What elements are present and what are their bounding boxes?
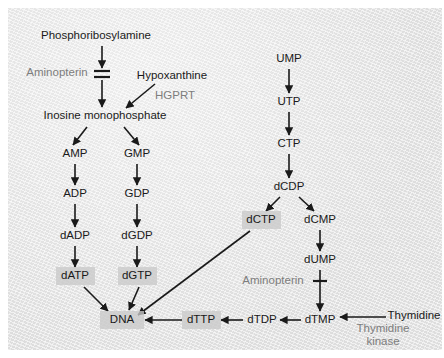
node-dtdp: dTDP — [247, 313, 277, 325]
node-dcmp: dCMP — [304, 213, 336, 225]
node-utp: UTP — [278, 95, 301, 107]
edge-dcdp-to-dcmp — [299, 197, 314, 211]
node-dttp: dTTP — [187, 313, 215, 325]
node-dgtp: dGTP — [122, 269, 152, 281]
node-ctp: CTP — [278, 137, 301, 149]
figure-page: Phosphoribosylamine Inosine monophosphat… — [0, 0, 444, 358]
node-gdp: GDP — [125, 187, 150, 199]
node-datp: dATP — [61, 269, 89, 281]
node-inosine-monophosphate: Inosine monophosphate — [44, 109, 167, 121]
diagram-panel: Phosphoribosylamine Inosine monophosphat… — [8, 8, 442, 350]
node-dtmp: dTMP — [305, 313, 336, 325]
node-phosphoribosylamine: Phosphoribosylamine — [41, 29, 151, 41]
edge-dgtp-to-dna — [129, 287, 139, 310]
node-gmp: GMP — [124, 147, 151, 159]
pathway-diagram: Phosphoribosylamine Inosine monophosphat… — [8, 8, 442, 350]
node-dna: DNA — [110, 313, 135, 325]
node-dctp: dCTP — [246, 213, 276, 225]
node-thymidine: Thymidine — [387, 309, 440, 321]
label-aminopterin-2: Aminopterin — [242, 274, 303, 286]
label-aminopterin-1: Aminopterin — [26, 66, 87, 78]
node-dgdp: dGDP — [121, 229, 153, 241]
edge-dcdp-to-dctp — [266, 197, 280, 211]
node-dadp: dADP — [60, 229, 90, 241]
label-thymidine-kinase-line1: Thymidine — [356, 322, 409, 334]
edge-hypoxanthine-to-imp — [126, 84, 155, 108]
node-hypoxanthine: Hypoxanthine — [137, 69, 207, 81]
node-ump: UMP — [276, 52, 302, 64]
node-amp: AMP — [63, 147, 88, 159]
edge-imp-to-amp — [73, 127, 87, 145]
label-hgprt: HGPRT — [155, 89, 195, 101]
node-label-layer: Phosphoribosylamine Inosine monophosphat… — [41, 29, 441, 325]
edge-imp-to-gmp — [124, 127, 139, 145]
node-dump: dUMP — [304, 253, 336, 265]
label-thymidine-kinase-line2: kinase — [366, 335, 399, 347]
node-adp: ADP — [63, 187, 87, 199]
node-dcdp: dCDP — [274, 180, 305, 192]
edge-datp-to-dna — [84, 287, 108, 311]
